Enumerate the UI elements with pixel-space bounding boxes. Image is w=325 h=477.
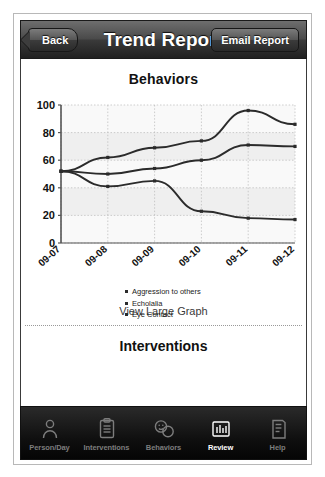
tab-label: Behaviors xyxy=(146,443,181,452)
tab-label: Help xyxy=(270,443,286,452)
email-report-label: Email Report xyxy=(221,34,289,46)
tab-review[interactable]: Review xyxy=(192,407,249,459)
trend-chart: 02040608010009-0709-0809-0909-1009-1109-… xyxy=(21,95,306,300)
faces-icon xyxy=(152,417,176,441)
tab-bar: Person/DayInterventionsBehaviorsReviewHe… xyxy=(20,406,307,460)
tab-interventions[interactable]: Interventions xyxy=(78,407,135,459)
behaviors-section-title: Behaviors xyxy=(21,71,306,87)
svg-text:20: 20 xyxy=(43,209,55,221)
svg-text:40: 40 xyxy=(43,182,55,194)
back-button[interactable]: Back xyxy=(28,28,78,52)
clipboard-icon xyxy=(95,417,119,441)
svg-text:100: 100 xyxy=(37,99,55,111)
tab-behaviors[interactable]: Behaviors xyxy=(135,407,192,459)
legend-item: Eye Contact xyxy=(125,309,201,321)
section-divider xyxy=(25,325,302,326)
legend-swatch-icon xyxy=(125,290,128,293)
legend-item: Aggression to others xyxy=(125,286,201,298)
tab-person-day[interactable]: Person/Day xyxy=(21,407,78,459)
legend-item-label: Echolalia xyxy=(132,298,162,310)
tab-label: Review xyxy=(208,443,233,452)
svg-text:09-09: 09-09 xyxy=(130,243,157,269)
legend-item-label: Aggression to others xyxy=(132,286,201,298)
legend-swatch-icon xyxy=(125,313,128,316)
navigation-bar: Back Trend Report Email Report xyxy=(20,20,307,59)
tab-help[interactable]: Help xyxy=(249,407,306,459)
svg-text:60: 60 xyxy=(43,154,55,166)
tab-label: Interventions xyxy=(84,443,130,452)
svg-text:09-11: 09-11 xyxy=(224,243,250,268)
content-area: Behaviors 02040608010009-0709-0809-0909-… xyxy=(20,59,307,406)
interventions-section-title: Interventions xyxy=(21,338,306,354)
svg-text:09-08: 09-08 xyxy=(83,243,110,269)
device-frame: Back Trend Report Email Report Behaviors… xyxy=(13,13,312,465)
svg-text:80: 80 xyxy=(43,127,55,139)
legend-item-label: Eye Contact xyxy=(132,309,173,321)
trend-chart-svg: 02040608010009-0709-0809-0909-1009-1109-… xyxy=(21,95,306,295)
back-button-label: Back xyxy=(42,34,68,46)
tab-label: Person/Day xyxy=(29,443,69,452)
book-icon xyxy=(266,417,290,441)
page-title: Trend Report xyxy=(104,29,223,51)
svg-text:09-10: 09-10 xyxy=(176,243,203,269)
chart-legend: Aggression to othersEcholaliaEye Contact xyxy=(125,286,201,321)
svg-text:09-12: 09-12 xyxy=(270,243,297,269)
bar-chart-icon xyxy=(209,417,233,441)
person-icon xyxy=(38,417,62,441)
legend-item: Echolalia xyxy=(125,298,201,310)
legend-swatch-icon xyxy=(125,302,128,305)
email-report-button[interactable]: Email Report xyxy=(211,28,299,52)
